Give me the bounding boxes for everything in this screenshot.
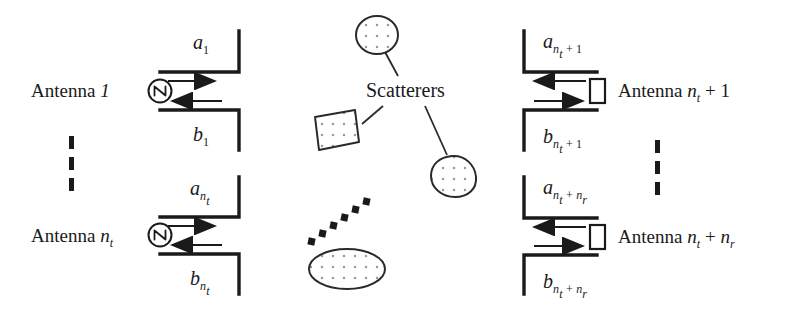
wave-antnr-subsuffix: +	[563, 188, 576, 202]
antenna-nt1-suffix: + 1	[700, 80, 730, 101]
wave-ant1-var: a	[543, 30, 553, 52]
scatterer-ellipse-bottom	[309, 249, 385, 289]
antenna-ntnr-base2: n	[720, 226, 730, 247]
antenna-nt-prefix: Antenna	[31, 225, 100, 246]
wave-ant1-subsuffix: + 1	[563, 42, 583, 56]
wave-bnt-subsub: t	[206, 284, 210, 298]
scatterer-square-left	[315, 110, 359, 150]
scatterer-blob-right	[431, 156, 476, 197]
wave-a1-sub: 1	[203, 43, 209, 57]
diagram-canvas	[0, 0, 786, 309]
wave-a1-var: a	[193, 31, 203, 53]
antenna-nt1-label: Antenna nt + 1	[618, 81, 730, 104]
wave-ant-subsub: t	[206, 194, 210, 208]
wave-antnr-label: ant + nr	[543, 177, 587, 206]
wave-bntnr-var: b	[543, 270, 553, 292]
antenna-ntnr-suffix: +	[700, 226, 720, 247]
wave-antnr-subsub2: r	[582, 193, 587, 207]
wave-bnt1-label: bnt + 1	[543, 126, 582, 155]
mimo-antenna-scatterer-diagram: Antenna 1 a1 b1 Antenna nt ant bnt Scatt…	[0, 0, 786, 309]
antenna-1-index: 1	[100, 80, 110, 101]
wave-bntnr-subsuffix: +	[563, 282, 576, 296]
wave-ant-var: a	[190, 177, 200, 199]
wave-ant1-label: ant + 1	[543, 31, 582, 60]
wave-b1-label: b1	[193, 124, 209, 148]
wave-bnt-label: bnt	[190, 268, 210, 297]
scatterer-circle-top	[356, 16, 398, 54]
wave-bnt1-var: b	[543, 125, 553, 147]
antenna-ntnr-prefix: Antenna	[618, 226, 687, 247]
scatterers-label: Scatterers	[366, 80, 445, 100]
wave-a1-label: a1	[193, 32, 209, 56]
antenna-1-prefix: Antenna	[31, 80, 100, 101]
scatterer-leader-lines	[362, 52, 447, 155]
wave-bnt1-subsuffix: + 1	[563, 137, 583, 151]
wave-bntnr-label: bnt + nr	[543, 271, 587, 300]
left-vertical-ellipsis	[69, 136, 74, 191]
wave-bnt-var: b	[190, 267, 200, 289]
wave-ant-label: ant	[190, 178, 210, 207]
wave-bntnr-subsub2: r	[582, 287, 587, 301]
antenna-nt1-base: n	[687, 80, 697, 101]
wave-b1-var: b	[193, 123, 203, 145]
wave-b1-sub: 1	[203, 135, 209, 149]
antenna-ntnr-label: Antenna nt + nr	[618, 227, 735, 250]
antenna-ntnr-base: n	[687, 226, 697, 247]
right-vertical-ellipsis	[655, 140, 660, 195]
antenna-nt-index-sub: t	[110, 236, 114, 250]
antenna-ntnr-base2-sub: r	[730, 237, 735, 251]
antenna-1-label: Antenna 1	[31, 81, 110, 100]
wave-antnr-var: a	[543, 176, 553, 198]
antenna-nt-index: n	[100, 225, 110, 246]
antenna-nt-label: Antenna nt	[31, 226, 113, 249]
antenna-nt1-prefix: Antenna	[618, 80, 687, 101]
diagonal-dots-ellipsis	[307, 197, 370, 245]
